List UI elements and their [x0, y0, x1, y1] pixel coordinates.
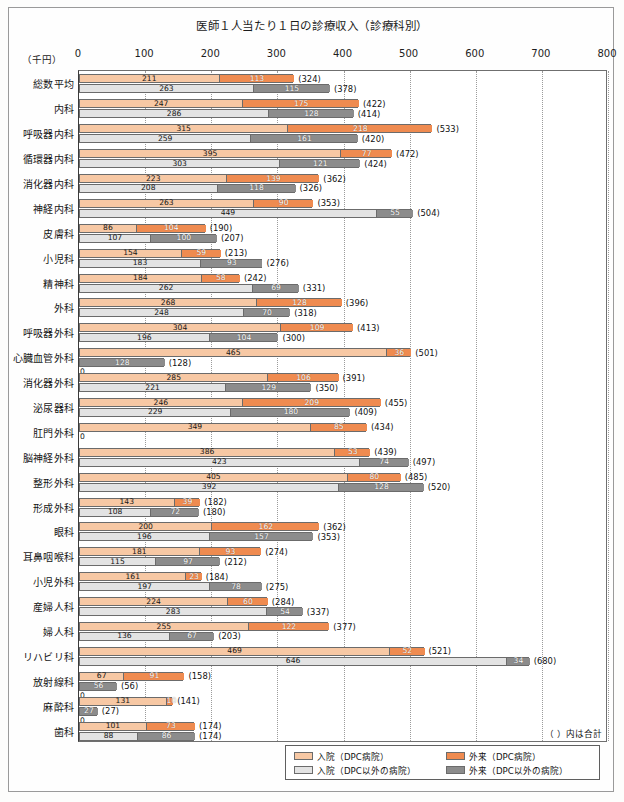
segment-inpatient: 229 — [80, 409, 231, 416]
segment-inpatient: 268 — [80, 299, 257, 306]
category-label: 内科 — [0, 101, 74, 116]
bar-total-label: (485) — [405, 472, 428, 482]
segment-value: 184 — [80, 274, 201, 282]
segment-outpatient: 67 — [170, 633, 214, 640]
gridline-600 — [476, 71, 477, 741]
bar-total-label: (472) — [396, 149, 419, 159]
bar-total-label: (533) — [436, 124, 459, 134]
segment-value: 93 — [201, 259, 262, 267]
bar-nondpc: 42374(497) — [79, 458, 408, 467]
segment-value: 104 — [137, 224, 206, 232]
bar-nondpc: 26269(331) — [79, 284, 298, 293]
segment-inpatient: 405 — [80, 474, 348, 481]
segment-value: 197 — [80, 583, 209, 591]
segment-value: 208 — [80, 184, 217, 192]
segment-outpatient: 69 — [253, 285, 299, 292]
bar-nondpc: 196104(300) — [79, 333, 277, 342]
bar-total-label: (520) — [428, 482, 451, 492]
segment-value: 108 — [80, 508, 150, 516]
segment-inpatient: 184 — [80, 275, 202, 282]
bar-total-label: (326) — [300, 183, 323, 193]
segment-value: 465 — [80, 349, 386, 357]
legend-label: 外来（DPC以外の病院） — [469, 764, 568, 776]
chart-page: 医師１人当たり１日の診療収入（診療科別） （千円） 211113(324)263… — [0, 0, 624, 802]
bar-total-label: (207) — [221, 233, 244, 243]
axis-unit-label: （千円） — [22, 52, 62, 66]
segment-outpatient: 39 — [175, 499, 201, 506]
bar-nondpc: 10872(180) — [79, 508, 198, 517]
segment-value: 136 — [80, 632, 169, 640]
segment-value: 129 — [226, 384, 311, 392]
bar-dpc: 268128(396) — [79, 298, 341, 307]
segment-value: 247 — [80, 100, 242, 108]
segment-inpatient: 101 — [80, 723, 147, 730]
gridline-800 — [608, 71, 609, 741]
segment-outpatient: 36 — [387, 349, 411, 356]
segment-value: 115 — [254, 85, 330, 93]
bar-total-label: (422) — [363, 99, 386, 109]
segment-value: 221 — [80, 384, 225, 392]
segment-inpatient: 248 — [80, 309, 244, 316]
category-label: 小児外科 — [0, 574, 74, 589]
segment-value: 392 — [80, 483, 338, 491]
segment-value: 100 — [151, 234, 217, 242]
segment-value: 154 — [80, 249, 181, 257]
bar-total-label: (680) — [534, 656, 557, 666]
segment-outpatient: 161 — [251, 135, 357, 142]
legend: 入院（DPC病院）外来（DPC病院）入院（DPC以外の病院）外来（DPC以外の病… — [285, 745, 600, 780]
segment-outpatient: 104 — [210, 334, 279, 341]
segment-outpatient: 70 — [244, 309, 290, 316]
category-label: 放射線科 — [0, 674, 74, 689]
segment-value: 218 — [288, 125, 432, 133]
segment-value: 93 — [200, 548, 261, 556]
segment-value: 90 — [254, 199, 314, 207]
category-label: 総数平均 — [0, 76, 74, 91]
bar-total-label: (455) — [385, 398, 408, 408]
segment-outpatient: 78 — [210, 583, 262, 590]
bar-nondpc: 128(128) — [79, 358, 164, 367]
segment-value: 113 — [220, 75, 295, 83]
legend-swatch — [446, 752, 465, 760]
legend-item[interactable]: 外来（DPC病院） — [446, 750, 541, 762]
bar-total-label: (128) — [169, 358, 192, 368]
segment-inpatient: 200 — [80, 523, 212, 530]
x-tick-label: 400 — [333, 48, 352, 59]
legend-item[interactable]: 外来（DPC以外の病院） — [446, 764, 568, 776]
legend-swatch — [294, 766, 313, 774]
category-label: 耳鼻咽喉科 — [0, 549, 74, 564]
bar-dpc: 46536(501) — [79, 348, 410, 357]
segment-value: 73 — [147, 722, 195, 730]
segment-value: 196 — [80, 334, 209, 342]
legend-swatch — [294, 752, 313, 760]
bar-total-label: (190) — [210, 223, 233, 233]
segment-value: 304 — [80, 324, 280, 332]
bar-dpc: 38653(439) — [79, 448, 369, 457]
segment-outpatient: 59 — [182, 250, 221, 257]
segment-value: 97 — [156, 558, 220, 566]
legend-item[interactable]: 入院（DPC以外の病院） — [294, 764, 416, 776]
legend-item[interactable]: 入院（DPC病院） — [294, 750, 389, 762]
segment-value: 55 — [377, 209, 413, 217]
bar-dpc: 315218(533) — [79, 124, 431, 133]
bar-total-label: (300) — [282, 333, 305, 343]
bar-nondpc: 221129(350) — [79, 383, 310, 392]
category-label: 外科 — [0, 300, 74, 315]
segment-inpatient: 131 — [80, 698, 167, 705]
x-tick-label: 700 — [531, 48, 550, 59]
category-label: 泌尿器科 — [0, 400, 74, 415]
bar-dpc: 200162(362) — [79, 522, 318, 531]
segment-outpatient: 55 — [377, 210, 413, 217]
segment-value: 181 — [80, 548, 199, 556]
category-label: 整形外科 — [0, 475, 74, 490]
bar-nondpc: 19778(275) — [79, 582, 261, 591]
segment-outpatient: 113 — [220, 75, 295, 82]
category-label: 麻酔科 — [0, 699, 74, 714]
segment-inpatient: 449 — [80, 210, 377, 217]
x-tick-label: 200 — [201, 48, 220, 59]
bar-total-label: (409) — [354, 407, 377, 417]
segment-value: 23 — [186, 573, 201, 581]
segment-inpatient: 183 — [80, 260, 201, 267]
segment-value: 58 — [202, 274, 240, 282]
bar-dpc: 223139(362) — [79, 174, 318, 183]
segment-outpatient: 115 — [254, 85, 330, 92]
